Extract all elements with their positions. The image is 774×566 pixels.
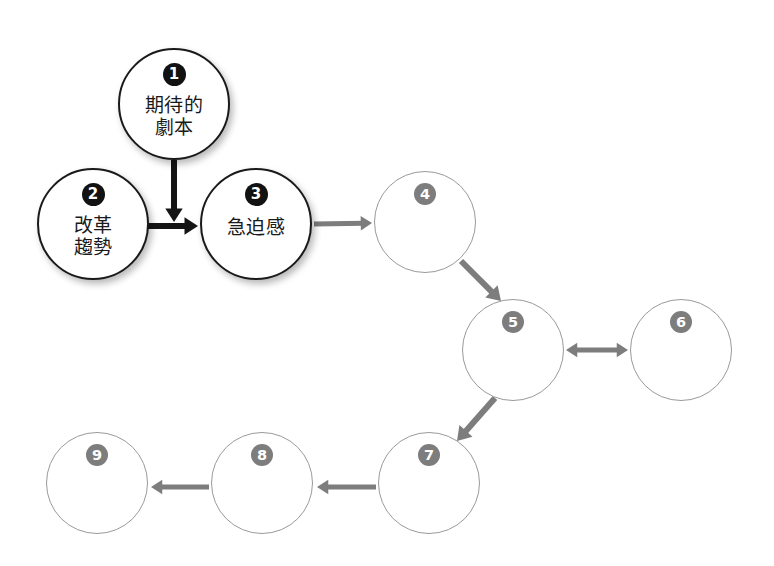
node-7[interactable]: 7	[378, 432, 480, 534]
edge-8-to-9[interactable]	[151, 480, 209, 495]
arrowhead-end	[317, 480, 328, 495]
node-3-number-badge: 3	[245, 183, 268, 206]
node-4-number-badge: 4	[414, 183, 436, 205]
node-6[interactable]: 6	[630, 299, 732, 401]
node-6-number-badge: 6	[670, 311, 692, 333]
arrowhead-end	[185, 217, 199, 234]
node-9[interactable]: 9	[46, 432, 148, 534]
node-5-number-badge: 5	[502, 311, 524, 333]
node-3-label: 急迫感	[202, 216, 310, 238]
edge-5-to-6[interactable]	[566, 343, 628, 358]
node-1-label: 期待的 劇本	[120, 94, 228, 138]
edge-line	[461, 261, 494, 294]
node-2-number-badge: 2	[82, 183, 105, 206]
node-9-number-badge: 9	[86, 444, 108, 466]
arrowhead-start	[566, 343, 577, 358]
edge-5-to-7[interactable]	[457, 398, 495, 441]
diagram-canvas: 1期待的 劇本2改革 趨勢3急迫感456789	[0, 0, 774, 566]
edge-3-to-4[interactable]	[314, 216, 372, 230]
node-5[interactable]: 5	[462, 299, 564, 401]
node-2-label: 改革 趨勢	[39, 214, 147, 258]
edge-7-to-8[interactable]	[317, 480, 376, 495]
edge-line	[314, 223, 364, 224]
node-2[interactable]: 2改革 趨勢	[37, 168, 149, 280]
node-8-number-badge: 8	[251, 444, 273, 466]
node-7-number-badge: 7	[418, 444, 440, 466]
node-4[interactable]: 4	[374, 171, 476, 273]
node-8[interactable]: 8	[211, 432, 313, 534]
arrowhead-end	[165, 209, 182, 223]
node-1[interactable]: 1期待的 劇本	[118, 48, 230, 160]
edge-1-to-2-3-link[interactable]	[165, 160, 182, 222]
arrowhead-end	[151, 480, 162, 495]
node-3[interactable]: 3急迫感	[200, 168, 312, 280]
edge-line	[463, 398, 495, 434]
edge-4-to-5[interactable]	[461, 261, 501, 301]
arrowhead-end	[617, 343, 628, 358]
arrowhead-end	[361, 216, 372, 230]
node-1-number-badge: 1	[163, 63, 186, 86]
